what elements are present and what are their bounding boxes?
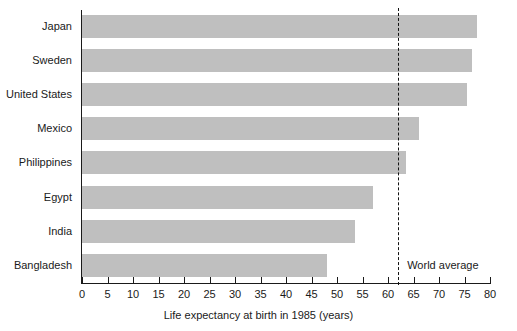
category-label-egypt: Egypt	[0, 191, 72, 203]
x-tick	[439, 277, 440, 283]
bar-chart: JapanSwedenUnited StatesMexicoPhilippine…	[0, 0, 517, 331]
category-label-sweden: Sweden	[0, 54, 72, 66]
bar[interactable]	[82, 254, 327, 277]
bar-row	[82, 215, 490, 249]
x-axis-title: Life expectancy at birth in 1985 (years)	[0, 309, 517, 322]
x-tick	[388, 277, 389, 283]
bar[interactable]	[82, 151, 406, 174]
x-tick	[184, 277, 185, 283]
x-tick	[312, 277, 313, 283]
bar-row	[82, 181, 490, 215]
bar[interactable]	[82, 83, 467, 106]
bar[interactable]	[82, 49, 472, 72]
category-label-india: India	[0, 225, 72, 237]
x-tick	[286, 277, 287, 283]
category-label-japan: Japan	[0, 20, 72, 32]
x-tick	[414, 277, 415, 283]
x-tick	[490, 277, 491, 283]
x-tick	[210, 277, 211, 283]
x-tick	[363, 277, 364, 283]
x-tick	[108, 277, 109, 283]
bar[interactable]	[82, 220, 355, 243]
world-average-label: World average	[407, 259, 478, 271]
bar-row	[82, 112, 490, 146]
x-tick	[465, 277, 466, 283]
category-label-philippines: Philippines	[0, 156, 72, 168]
bar[interactable]	[82, 117, 419, 140]
category-label-mexico: Mexico	[0, 122, 72, 134]
x-tick	[159, 277, 160, 283]
x-tick-label: 80	[475, 288, 505, 301]
category-label-united-states: United States	[0, 88, 72, 100]
x-tick	[261, 277, 262, 283]
bar[interactable]	[82, 15, 477, 38]
bar[interactable]	[82, 186, 373, 209]
bar-row	[82, 44, 490, 78]
x-tick	[133, 277, 134, 283]
bar-row	[82, 146, 490, 180]
category-label-bangladesh: Bangladesh	[0, 259, 72, 271]
x-tick	[337, 277, 338, 283]
x-axis-line	[81, 283, 491, 284]
x-tick	[235, 277, 236, 283]
bar-row	[82, 10, 490, 44]
bar-row	[82, 78, 490, 112]
x-tick	[82, 277, 83, 283]
world-average-line	[398, 8, 399, 285]
